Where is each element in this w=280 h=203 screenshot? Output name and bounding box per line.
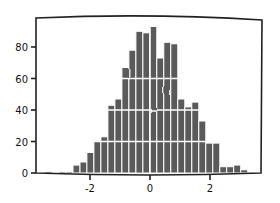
histogram-chart: 020406080 -202	[0, 0, 280, 203]
y-tick-label: 80	[15, 42, 28, 53]
histogram-bar	[73, 165, 80, 173]
histogram-bar	[185, 107, 192, 173]
y-tick-label: 0	[22, 168, 28, 179]
histogram-bar	[143, 33, 150, 173]
histogram-bar	[108, 105, 115, 173]
y-tick-label: 60	[15, 74, 28, 85]
histogram-bar	[220, 167, 227, 173]
histogram-bar	[199, 121, 206, 173]
histogram-bar	[87, 153, 94, 174]
histogram-bar	[80, 162, 87, 173]
histogram-bar	[234, 165, 241, 173]
histogram-bar	[129, 50, 136, 173]
histogram-bar	[192, 102, 199, 173]
y-axis: 020406080	[15, 42, 36, 179]
histogram-bars	[45, 27, 248, 174]
x-axis: -202	[85, 175, 213, 194]
histogram-bar	[136, 31, 143, 173]
histogram-bar	[157, 58, 164, 173]
histogram-bar	[66, 171, 73, 173]
x-tick-label: -2	[85, 183, 95, 194]
y-tick-label: 20	[15, 137, 28, 148]
y-tick-label: 40	[15, 105, 28, 116]
histogram-bar	[94, 142, 101, 174]
histogram-bar	[206, 143, 213, 173]
histogram-bar	[164, 42, 171, 173]
histogram-bar	[150, 27, 157, 174]
histogram-bar	[241, 170, 248, 173]
x-tick-label: 0	[147, 183, 153, 194]
histogram-bar	[171, 44, 178, 173]
x-tick-label: 2	[207, 183, 213, 194]
histogram-bar	[59, 171, 66, 173]
histogram-bar	[122, 68, 129, 174]
histogram-bar	[227, 167, 234, 173]
histogram-bar	[213, 143, 220, 173]
